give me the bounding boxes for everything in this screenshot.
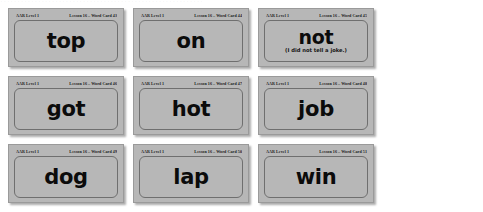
card-word: lap <box>173 167 209 188</box>
card-header-left: AAR Level 1 <box>141 12 164 19</box>
card-header-left: AAR Level 1 <box>266 148 289 155</box>
card-word: on <box>177 31 206 52</box>
card-header: AAR Level 1 Lesson 16 – Word Card 46 <box>13 80 119 87</box>
card-header-right: Lesson 16 – Word Card 45 <box>319 12 367 19</box>
card-header: AAR Level 1 Lesson 16 – Word Card 48 <box>263 80 369 87</box>
card-word: top <box>47 31 86 52</box>
card-header-left: AAR Level 1 <box>266 80 289 87</box>
card-word: hot <box>172 99 211 120</box>
word-card[interactable]: AAR Level 1 Lesson 16 – Word Card 51 win <box>258 144 374 203</box>
card-header: AAR Level 1 Lesson 16 – Word Card 44 <box>138 12 244 19</box>
card-word: job <box>298 99 334 120</box>
card-header-right: Lesson 16 – Word Card 51 <box>319 148 367 155</box>
card-header-left: AAR Level 1 <box>141 148 164 155</box>
card-body: on <box>139 20 243 62</box>
card-body: win <box>264 156 368 198</box>
card-header-left: AAR Level 1 <box>16 148 39 155</box>
card-word: win <box>296 167 337 188</box>
card-header: AAR Level 1 Lesson 16 – Word Card 49 <box>13 148 119 155</box>
card-header-left: AAR Level 1 <box>16 12 39 19</box>
card-header: AAR Level 1 Lesson 16 – Word Card 43 <box>13 12 119 19</box>
card-header-right: Lesson 16 – Word Card 44 <box>194 12 242 19</box>
card-word: not <box>299 28 334 47</box>
word-card[interactable]: AAR Level 1 Lesson 16 – Word Card 45 not… <box>258 8 374 67</box>
word-card-grid: AAR Level 1 Lesson 16 – Word Card 43 top… <box>8 8 483 203</box>
word-card[interactable]: AAR Level 1 Lesson 16 – Word Card 50 lap <box>133 144 249 203</box>
card-header-right: Lesson 16 – Word Card 48 <box>319 80 367 87</box>
card-header-right: Lesson 16 – Word Card 46 <box>69 80 117 87</box>
card-body: job <box>264 88 368 130</box>
card-word: got <box>47 99 86 120</box>
card-header-right: Lesson 16 – Word Card 43 <box>69 12 117 19</box>
card-header: AAR Level 1 Lesson 16 – Word Card 47 <box>138 80 244 87</box>
card-header-left: AAR Level 1 <box>141 80 164 87</box>
card-header: AAR Level 1 Lesson 16 – Word Card 51 <box>263 148 369 155</box>
card-header-left: AAR Level 1 <box>16 80 39 87</box>
card-subtitle: (I did not tell a joke.) <box>285 48 347 53</box>
card-header: AAR Level 1 Lesson 16 – Word Card 50 <box>138 148 244 155</box>
word-card[interactable]: AAR Level 1 Lesson 16 – Word Card 49 dog <box>8 144 124 203</box>
card-header-right: Lesson 16 – Word Card 50 <box>194 148 242 155</box>
word-card[interactable]: AAR Level 1 Lesson 16 – Word Card 47 hot <box>133 76 249 135</box>
clipped-text-above: ........................................… <box>0 0 483 2</box>
card-word: dog <box>44 167 88 188</box>
card-body: dog <box>14 156 118 198</box>
card-body: top <box>14 20 118 62</box>
card-body: got <box>14 88 118 130</box>
card-header-right: Lesson 16 – Word Card 47 <box>194 80 242 87</box>
card-body: hot <box>139 88 243 130</box>
card-header: AAR Level 1 Lesson 16 – Word Card 45 <box>263 12 369 19</box>
word-card[interactable]: AAR Level 1 Lesson 16 – Word Card 46 got <box>8 76 124 135</box>
word-card[interactable]: AAR Level 1 Lesson 16 – Word Card 48 job <box>258 76 374 135</box>
word-card[interactable]: AAR Level 1 Lesson 16 – Word Card 43 top <box>8 8 124 67</box>
word-card[interactable]: AAR Level 1 Lesson 16 – Word Card 44 on <box>133 8 249 67</box>
card-header-left: AAR Level 1 <box>266 12 289 19</box>
card-body: not (I did not tell a joke.) <box>264 20 368 62</box>
card-header-right: Lesson 16 – Word Card 49 <box>69 148 117 155</box>
card-body: lap <box>139 156 243 198</box>
